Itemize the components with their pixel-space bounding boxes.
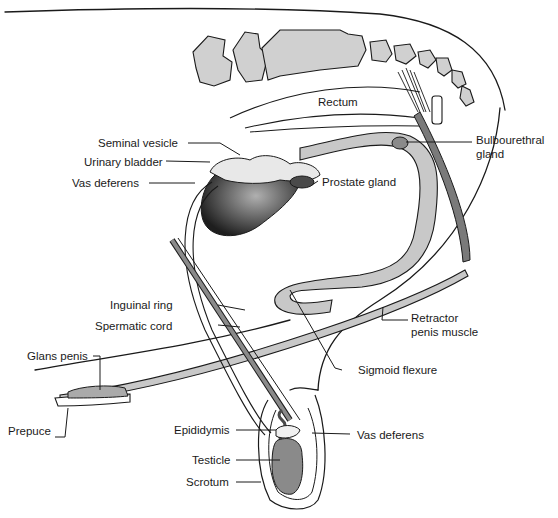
label-spermatic-cord: Spermatic cord — [95, 320, 172, 333]
label-vas-deferens-lower: Vas deferens — [357, 429, 424, 442]
label-retractor-line1: Retractor — [411, 312, 458, 325]
label-retractor-line2: penis muscle — [411, 326, 478, 339]
label-seminal-vesicle: Seminal vesicle — [98, 137, 178, 150]
vertebrae — [193, 30, 474, 106]
label-rectum: Rectum — [318, 96, 358, 109]
label-sigmoid-flexure: Sigmoid flexure — [358, 364, 437, 377]
spermatic-cord-shape — [172, 240, 290, 420]
label-testicle: Testicle — [192, 454, 230, 467]
anatomy-illustration — [0, 0, 558, 518]
label-prepuce: Prepuce — [8, 425, 51, 438]
label-urinary-bladder: Urinary bladder — [84, 156, 163, 169]
penis-urethra — [275, 133, 438, 315]
label-bulbourethral-line1: Bulbourethral — [476, 134, 544, 147]
label-inguinal-ring: Inguinal ring — [110, 299, 173, 312]
rectum — [230, 87, 442, 132]
bulbourethral-shape — [392, 137, 408, 149]
prostate-shape — [290, 176, 314, 188]
label-glans-penis: Glans penis — [27, 350, 88, 363]
label-vas-deferens-upper: Vas deferens — [72, 177, 139, 190]
label-scrotum: Scrotum — [186, 476, 229, 489]
label-prostate-gland: Prostate gland — [322, 176, 396, 189]
reproductive-tract-diagram: Rectum Seminal vesicle Urinary bladder V… — [0, 0, 558, 518]
label-epididymis: Epididymis — [174, 424, 230, 437]
testicle-shape — [272, 439, 303, 495]
retractor-fan — [398, 68, 430, 112]
label-bulbourethral-line2: gland — [476, 148, 504, 161]
glans-shape — [68, 386, 128, 398]
